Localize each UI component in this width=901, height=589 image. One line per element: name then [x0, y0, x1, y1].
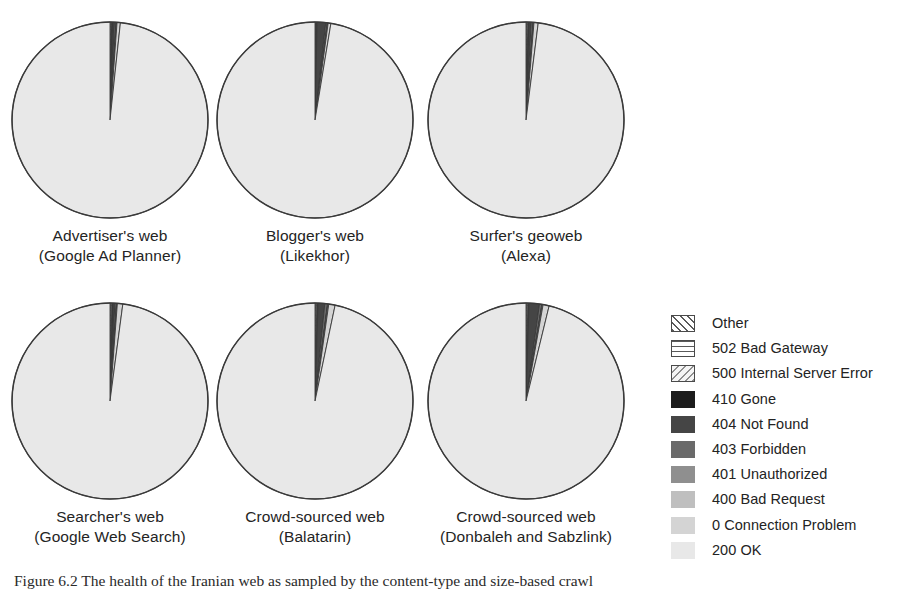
legend-item[interactable]: 410 Gone	[671, 387, 901, 412]
figure-caption-label: Figure 6.2	[14, 572, 78, 589]
pie-slice	[428, 22, 624, 218]
pie-svg	[411, 14, 641, 226]
legend-item[interactable]: Other	[671, 311, 901, 336]
pie-slice	[12, 22, 208, 218]
legend-swatch-icon	[671, 391, 695, 408]
figure-caption-text: The health of the Iranian web as sampled…	[81, 572, 593, 589]
pie-chart-advertisers-web	[0, 14, 225, 226]
legend-item[interactable]: 404 Not Found	[671, 412, 901, 437]
pie-label-line1: Surfer's geoweb	[469, 227, 582, 244]
chart-legend: Other502 Bad Gateway500 Internal Server …	[671, 311, 901, 563]
pie-caption-searchers-web: Searcher's web (Google Web Search)	[0, 507, 225, 547]
legend-item-label: 0 Connection Problem	[712, 517, 856, 534]
pie-label-line1: Blogger's web	[266, 227, 364, 244]
pie-panel-bloggers-web: Blogger's web (Likekhor)	[200, 14, 430, 266]
legend-item[interactable]: 400 Bad Request	[671, 487, 901, 512]
legend-swatch-icon	[671, 315, 695, 332]
legend-item-label: 410 Gone	[712, 391, 776, 408]
pie-caption-bloggers-web: Blogger's web (Likekhor)	[200, 226, 430, 266]
pie-label-line1: Crowd-sourced web	[456, 508, 596, 525]
figure-caption: Figure 6.2 The health of the Iranian web…	[14, 571, 894, 589]
legend-swatch-icon	[671, 340, 695, 357]
legend-item[interactable]: 403 Forbidden	[671, 437, 901, 462]
legend-swatch-icon	[671, 517, 695, 534]
pie-caption-advertisers-web: Advertiser's web (Google Ad Planner)	[0, 226, 225, 266]
legend-swatch-icon	[671, 466, 695, 483]
legend-item-label: Other	[712, 315, 749, 332]
legend-item[interactable]: 0 Connection Problem	[671, 513, 901, 538]
pie-svg	[200, 295, 430, 507]
pie-label-line1: Advertiser's web	[53, 227, 168, 244]
legend-item-label: 401 Unauthorized	[712, 466, 827, 483]
legend-item[interactable]: 502 Bad Gateway	[671, 336, 901, 361]
legend-item[interactable]: 500 Internal Server Error	[671, 361, 901, 386]
pie-svg	[0, 14, 225, 226]
pie-caption-crowd-sourced-balatarin: Crowd-sourced web (Balatarin)	[200, 507, 430, 547]
legend-item[interactable]: 200 OK	[671, 538, 901, 563]
pie-label-line1: Crowd-sourced web	[245, 508, 385, 525]
pie-svg	[411, 295, 641, 507]
pie-caption-crowd-sourced-donbaleh: Crowd-sourced web (Donbaleh and Sabzlink…	[411, 507, 641, 547]
legend-item-label: 500 Internal Server Error	[712, 365, 873, 382]
pie-panel-crowd-sourced-donbaleh: Crowd-sourced web (Donbaleh and Sabzlink…	[411, 295, 641, 547]
legend-swatch-icon	[671, 416, 695, 433]
pie-caption-surfers-geoweb: Surfer's geoweb (Alexa)	[411, 226, 641, 266]
pie-chart-bloggers-web	[200, 14, 430, 226]
pie-label-line2: (Likekhor)	[200, 246, 430, 266]
legend-item-label: 400 Bad Request	[712, 491, 825, 508]
pie-chart-searchers-web	[0, 295, 225, 507]
legend-item-label: 403 Forbidden	[712, 441, 806, 458]
pie-panel-advertisers-web: Advertiser's web (Google Ad Planner)	[0, 14, 225, 266]
pie-label-line2: (Donbaleh and Sabzlink)	[411, 527, 641, 547]
legend-item-label: 502 Bad Gateway	[712, 340, 828, 357]
pie-slice	[217, 303, 413, 499]
pie-slice	[12, 303, 208, 499]
pie-svg	[200, 14, 430, 226]
pie-chart-surfers-geoweb	[411, 14, 641, 226]
pie-slice	[217, 22, 413, 218]
legend-swatch-icon	[671, 365, 695, 382]
pie-panel-searchers-web: Searcher's web (Google Web Search)	[0, 295, 225, 547]
pie-slice	[428, 303, 624, 499]
legend-swatch-icon	[671, 491, 695, 508]
pie-chart-crowd-sourced-balatarin	[200, 295, 430, 507]
pie-label-line2: (Balatarin)	[200, 527, 430, 547]
pie-chart-crowd-sourced-donbaleh	[411, 295, 641, 507]
pie-label-line2: (Google Ad Planner)	[0, 246, 225, 266]
pie-label-line2: (Alexa)	[411, 246, 641, 266]
pie-panel-surfers-geoweb: Surfer's geoweb (Alexa)	[411, 14, 641, 266]
legend-item-label: 200 OK	[712, 542, 761, 559]
pie-svg	[0, 295, 225, 507]
figure-root: Advertiser's web (Google Ad Planner)	[0, 0, 901, 589]
legend-item-label: 404 Not Found	[712, 416, 809, 433]
legend-swatch-icon	[671, 542, 695, 559]
legend-item[interactable]: 401 Unauthorized	[671, 462, 901, 487]
pie-panel-crowd-sourced-balatarin: Crowd-sourced web (Balatarin)	[200, 295, 430, 547]
legend-swatch-icon	[671, 441, 695, 458]
pie-label-line2: (Google Web Search)	[0, 527, 225, 547]
pie-label-line1: Searcher's web	[56, 508, 164, 525]
